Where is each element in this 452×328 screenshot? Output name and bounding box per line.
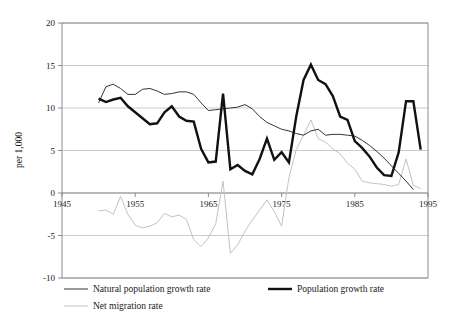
y-axis-tick-labels: 20151050-5-10 — [43, 18, 56, 283]
x-axis-ticks-group — [62, 193, 428, 197]
y-tick-label-15: 15 — [46, 61, 56, 71]
y-tick-label--10: -10 — [43, 273, 55, 283]
x-tick-label-1955: 1955 — [126, 199, 145, 209]
x-tick-label-1985: 1985 — [346, 199, 365, 209]
legend-label-net-migration-rate: Net migration rate — [93, 301, 163, 311]
y-tick-label-20: 20 — [46, 18, 56, 28]
y-tick-label-0: 0 — [51, 188, 56, 198]
legend-label-population-growth-rate: Population growth rate — [297, 284, 384, 294]
y-axis-ticks-group — [58, 23, 62, 278]
chart-container: 20151050-5-10 194519551965197519851995 p… — [0, 0, 452, 328]
chart-legend: Natural population growth ratePopulation… — [64, 284, 384, 311]
line-chart-figure: 20151050-5-10 194519551965197519851995 p… — [0, 0, 452, 328]
y-axis-title: per 1,000 — [14, 132, 24, 168]
y-tick-label-10: 10 — [46, 103, 56, 113]
x-tick-label-1995: 1995 — [419, 199, 438, 209]
x-tick-label-1965: 1965 — [199, 199, 218, 209]
gridlines-group — [62, 23, 428, 278]
y-tick-label--5: -5 — [48, 231, 56, 241]
y-tick-label-5: 5 — [51, 146, 56, 156]
series-line-population-growth-rate — [99, 65, 421, 176]
data-series-group — [99, 65, 421, 254]
series-line-net-migration-rate — [99, 120, 421, 253]
x-axis-tick-labels: 194519551965197519851995 — [53, 199, 438, 209]
x-tick-label-1975: 1975 — [273, 199, 292, 209]
legend-label-natural-population-growth-rate: Natural population growth rate — [93, 284, 210, 294]
x-tick-label-1945: 1945 — [53, 199, 72, 209]
series-line-natural-population-growth-rate — [99, 84, 414, 189]
